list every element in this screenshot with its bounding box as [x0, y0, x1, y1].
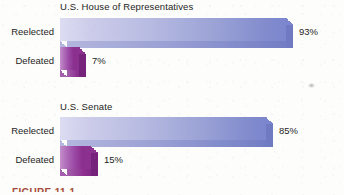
bar-row-senate-reelected: Reelected 85%	[0, 117, 344, 147]
bar-house-reelected[interactable]	[60, 18, 293, 48]
category-label-senate-defeated: Defeated	[0, 154, 54, 165]
bar-side-face	[266, 124, 273, 140]
bar-corner-top-right	[286, 18, 293, 25]
bar-row-house-reelected: Reelected 93%	[0, 18, 344, 48]
bar-corner-bottom-right	[79, 70, 86, 77]
bar-corner-bottom-left	[60, 169, 67, 176]
category-label-house-reelected: Reelected	[0, 26, 54, 37]
bar-corner-top-right	[91, 146, 98, 153]
bar-side-face	[91, 153, 98, 169]
bar-face	[60, 18, 286, 41]
bar-corner-top-right	[266, 117, 273, 124]
value-label-house-reelected: 93%	[299, 26, 318, 37]
chart-title-house: U.S. House of Representatives	[60, 1, 193, 12]
scan-speck	[308, 83, 315, 88]
chart-title-senate: U.S. Senate	[60, 101, 112, 112]
bar-side-face	[79, 54, 86, 70]
bar-corner-bottom-right	[91, 169, 98, 176]
bar-face	[60, 146, 91, 169]
value-label-house-defeated: 7%	[92, 55, 106, 66]
bar-row-senate-defeated: Defeated 15%	[0, 146, 344, 176]
bar-side-face	[286, 25, 293, 41]
bar-senate-defeated[interactable]	[60, 146, 98, 176]
figure-caption: FIGURE 11-1	[12, 187, 75, 195]
bar-corner-top-right	[79, 47, 86, 54]
category-label-house-defeated: Defeated	[0, 55, 54, 66]
value-label-senate-defeated: 15%	[104, 154, 123, 165]
bar-corner-bottom-left	[60, 70, 67, 77]
chart-panel-house: U.S. House of Representatives Reelected …	[0, 0, 344, 98]
category-label-senate-reelected: Reelected	[0, 125, 54, 136]
value-label-senate-reelected: 85%	[279, 125, 298, 136]
bar-face	[60, 47, 79, 70]
bar-senate-reelected[interactable]	[60, 117, 273, 147]
bar-house-defeated[interactable]	[60, 47, 86, 77]
chart-panel-senate: U.S. Senate Reelected 85% Defeated	[0, 100, 344, 178]
bar-row-house-defeated: Defeated 7%	[0, 47, 344, 77]
bar-face	[60, 117, 266, 140]
